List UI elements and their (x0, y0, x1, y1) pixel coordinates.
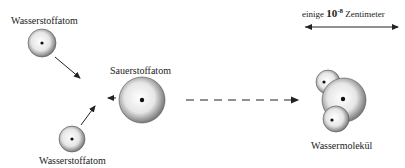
label-hydrogen-bottom: Wasserstoffatom (39, 155, 106, 166)
arrow-hydrogen-top (55, 57, 80, 78)
hydrogen-atom-top (28, 29, 56, 57)
water-molecule (316, 70, 366, 132)
arrow-hydrogen-bottom (81, 106, 95, 125)
scale-label: einige 10-8 Zentimeter (302, 7, 385, 19)
label-hydrogen-top: Wasserstoffatom (11, 15, 78, 26)
label-molecule: Wassermolekül (311, 140, 372, 151)
hydrogen-atom-bottom (59, 126, 85, 152)
oxygen-atom (119, 77, 165, 123)
label-oxygen: Sauerstoffatom (110, 65, 171, 76)
